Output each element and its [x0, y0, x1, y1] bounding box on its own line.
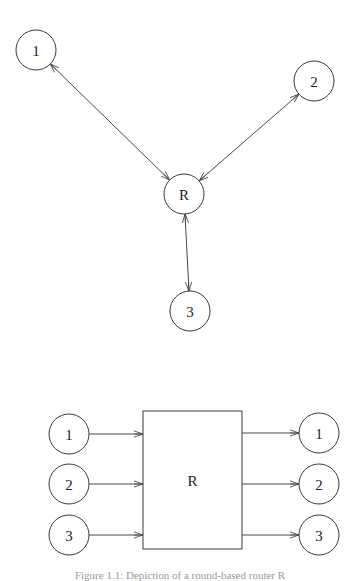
edge-2-R	[199, 94, 299, 181]
router-box-label: R	[187, 473, 197, 489]
node-3: 3	[170, 291, 210, 331]
bottom-diagram: R 123 123	[49, 411, 339, 555]
input-node-2: 2	[49, 464, 89, 504]
output-node-3: 3	[299, 515, 339, 555]
node-1: 1	[16, 30, 56, 70]
node-label: 1	[65, 427, 73, 443]
edge-R-3	[185, 214, 189, 291]
node-label: R	[179, 187, 189, 203]
edge-1-R	[50, 64, 169, 180]
node-label: 2	[65, 477, 73, 493]
node-2: 2	[294, 61, 334, 101]
input-nodes: 123	[49, 414, 143, 555]
node-label: 3	[186, 304, 194, 320]
node-R: R	[164, 174, 204, 214]
node-label: 2	[315, 477, 323, 493]
figure-caption: Figure 1.1: Depiction of a round-based r…	[0, 569, 360, 581]
node-label: 1	[315, 426, 323, 442]
node-label: 3	[65, 528, 73, 544]
output-node-2: 2	[299, 464, 339, 504]
node-label: 1	[32, 43, 40, 59]
node-label: 3	[315, 528, 323, 544]
input-node-1: 1	[49, 414, 89, 454]
input-node-3: 3	[49, 515, 89, 555]
node-label: 2	[310, 74, 318, 90]
output-nodes: 123	[242, 413, 339, 555]
top-diagram-nodes: 12R3	[16, 30, 334, 331]
output-node-1: 1	[299, 413, 339, 453]
